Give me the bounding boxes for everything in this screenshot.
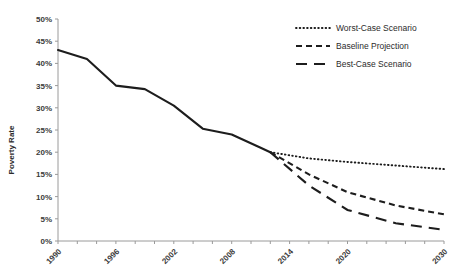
poverty-rate-line-chart: 0%5%10%15%20%25%30%35%40%45%50% 19901996… <box>0 0 468 280</box>
y-axis: 0%5%10%15%20%25%30%35%40%45%50% <box>36 15 58 246</box>
y-tick-label: 30% <box>36 104 52 113</box>
series-line <box>270 152 444 230</box>
y-tick-label: 5% <box>40 215 52 224</box>
legend-label: Worst-Case Scenario <box>336 23 417 33</box>
x-tick-label: 2008 <box>218 247 237 266</box>
y-tick-label: 35% <box>36 82 52 91</box>
x-axis: 1990199620022008201420202030 <box>44 241 449 266</box>
x-tick-label: 2002 <box>160 247 179 266</box>
legend-label: Baseline Projection <box>336 41 409 51</box>
y-tick-label: 50% <box>36 15 52 24</box>
y-tick-label: 40% <box>36 59 52 68</box>
x-tick-label: 2020 <box>334 247 353 266</box>
series-lines <box>58 50 444 230</box>
chart-legend: Worst-Case ScenarioBaseline ProjectionBe… <box>296 23 417 69</box>
y-tick-label: 0% <box>40 237 52 246</box>
y-axis-title: Poverty Rate <box>7 125 16 174</box>
x-tick-label: 1990 <box>44 247 63 266</box>
series-line <box>58 50 270 152</box>
y-tick-label: 15% <box>36 170 52 179</box>
y-tick-label: 10% <box>36 193 52 202</box>
legend-label: Best-Case Scenario <box>336 59 412 69</box>
chart-canvas: 0%5%10%15%20%25%30%35%40%45%50% 19901996… <box>0 0 468 280</box>
x-tick-label: 2014 <box>276 247 295 266</box>
series-line <box>270 152 444 169</box>
series-line <box>270 152 444 214</box>
x-tick-label: 2030 <box>430 247 449 266</box>
y-tick-label: 20% <box>36 148 52 157</box>
y-tick-label: 45% <box>36 37 52 46</box>
x-tick-label: 1996 <box>102 247 121 266</box>
y-tick-label: 25% <box>36 126 52 135</box>
